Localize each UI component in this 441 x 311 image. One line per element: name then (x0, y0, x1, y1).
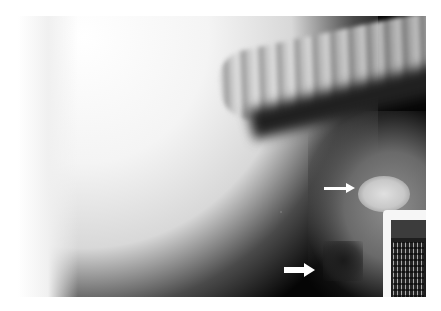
radiopaque-mass (358, 176, 410, 212)
speck (280, 211, 282, 213)
left-edge-overexposure (18, 16, 78, 297)
gas-lucency (323, 241, 363, 281)
radiograph (18, 16, 426, 297)
label-text (393, 242, 424, 297)
film-id-label (383, 210, 426, 297)
